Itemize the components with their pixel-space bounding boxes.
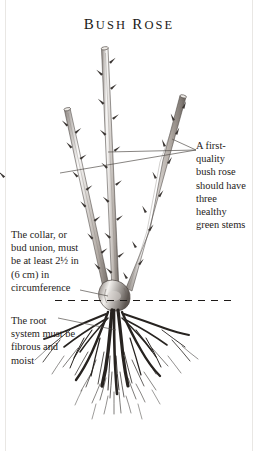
stems-annotation-line: three [196,192,258,205]
roots-annotation-line: fibrous and [11,340,115,353]
stems-annotation-line: green stems [196,218,258,231]
figure-title: BUSH ROSE [0,16,258,33]
collar-annotation-line: bud union, must [11,241,115,254]
title-rest-ush: USH [96,18,127,32]
stems-annotation-line: should have [196,179,258,192]
collar-annotation-line: (6 cm) in [11,268,115,281]
stems-annotation-line: bush rose [196,165,258,178]
rose-stem-right [121,94,189,291]
stems-annotation: A first- quality bush rose should have t… [196,139,258,231]
stems-annotation-line: A first- [196,139,258,152]
roots-annotation-line: moist [11,354,115,367]
title-initial-r: R [132,16,144,32]
title-rest-ose: OSE [144,18,174,32]
collar-annotation-line: be at least 2½ in [11,254,115,267]
roots-annotation-line: The root [11,314,115,327]
collar-annotation: The collar, or bud union, must be at lea… [11,228,115,294]
collar-annotation-line: The collar, or [11,228,115,241]
stems-annotation-line: healthy [196,205,258,218]
figure-page: BUSH ROSE A first- quality bush rose sho… [0,0,258,451]
roots-annotation-line: system must be [11,327,115,340]
stems-annotation-line: quality [196,152,258,165]
roots-annotation: The root system must be fibrous and mois… [11,314,115,367]
collar-annotation-line: circumference [11,281,115,294]
title-initial-b: B [84,16,96,32]
